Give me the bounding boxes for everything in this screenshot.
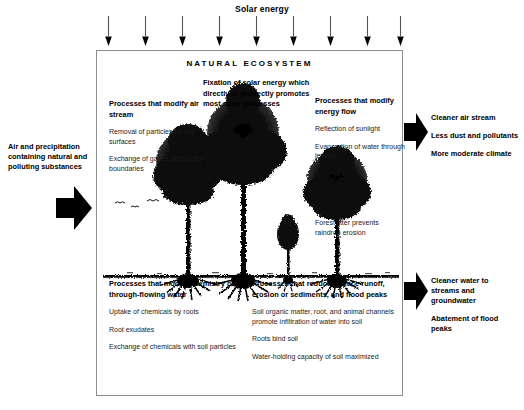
block-energy-flow-heading: Processes that modify energy flow <box>315 96 405 117</box>
down-arrow-icon <box>289 16 298 46</box>
output-air-label: Cleaner air stream <box>431 113 521 123</box>
block-air-stream-item: Exchange of gases across leaf boundaries <box>109 154 213 173</box>
block-forest-litter: Forest litter prevents raindrop erosion <box>315 218 405 237</box>
block-surface-runoff-item: Water-holding capacity of soil maximized <box>252 352 400 362</box>
input-air-precipitation-label: Air and precipitation containing natural… <box>8 142 92 172</box>
down-arrow-icon <box>215 16 224 46</box>
ecosystem-title: NATURAL ECOSYSTEM <box>97 59 402 68</box>
down-arrow-icon <box>141 16 150 46</box>
output-air-label: More moderate climate <box>431 149 521 159</box>
right-block-arrow-icon <box>404 113 428 155</box>
block-water-chemistry-item: Uptake of chemicals by roots <box>109 307 251 317</box>
block-energy-flow-item: Evaporation of water through leaves <box>315 142 405 161</box>
block-surface-runoff-item: Roots bind soil <box>252 334 400 344</box>
natural-ecosystem-box: NATURAL ECOSYSTEM <box>96 50 403 396</box>
block-air-stream-heading: Processes that modify air stream <box>109 99 213 120</box>
output-air-labels: Cleaner air stream Less dust and polluta… <box>431 113 521 159</box>
solar-energy-label: Solar energy <box>0 4 524 14</box>
block-energy-flow-item: Reflection of sunlight <box>315 124 405 134</box>
input-label-text: Air and precipitation containing natural… <box>8 142 92 172</box>
block-surface-runoff: Processes that reduce surface runoff, er… <box>252 279 400 361</box>
output-water-label: Abatement of flood peaks <box>431 314 517 334</box>
block-air-stream: Processes that modify air stream Removal… <box>109 99 213 173</box>
right-block-arrow-icon <box>404 272 428 314</box>
block-water-chemistry-heading: Processes that modify chemistry of throu… <box>109 279 251 300</box>
output-water-label: Cleaner water to streams and groundwater <box>431 276 517 306</box>
solar-energy-arrow-group <box>104 16 400 46</box>
output-water-labels: Cleaner water to streams and groundwater… <box>431 276 517 334</box>
block-water-chemistry-item: Root exudates <box>109 325 251 335</box>
right-block-arrow-icon <box>56 186 92 234</box>
block-surface-runoff-heading: Processes that reduce surface runoff, er… <box>252 279 400 300</box>
down-arrow-icon <box>363 16 372 46</box>
block-fixation-heading: Fixation of solar energy which directly … <box>203 78 313 110</box>
block-forest-litter-item: Forest litter prevents raindrop erosion <box>315 218 405 237</box>
diagram-page: Solar energy NATURAL EC <box>0 0 524 410</box>
block-air-stream-item: Removal of particles by leaf surfaces <box>109 127 213 146</box>
down-arrow-icon <box>396 16 405 46</box>
block-surface-runoff-item: Soil organic matter, root, and animal ch… <box>252 307 400 326</box>
block-water-chemistry: Processes that modify chemistry of throu… <box>109 279 251 352</box>
birds-icon <box>115 197 171 207</box>
ground-line <box>103 275 399 278</box>
down-arrow-icon <box>326 16 335 46</box>
down-arrow-icon <box>104 16 113 46</box>
block-fixation: Fixation of solar energy which directly … <box>203 78 313 117</box>
block-energy-flow: Processes that modify energy flow Reflec… <box>315 96 405 161</box>
down-arrow-icon <box>178 16 187 46</box>
output-air-label: Less dust and pollutants <box>431 131 521 141</box>
block-water-chemistry-item: Exchange of chemicals with soil particle… <box>109 342 251 352</box>
down-arrow-icon <box>252 16 261 46</box>
